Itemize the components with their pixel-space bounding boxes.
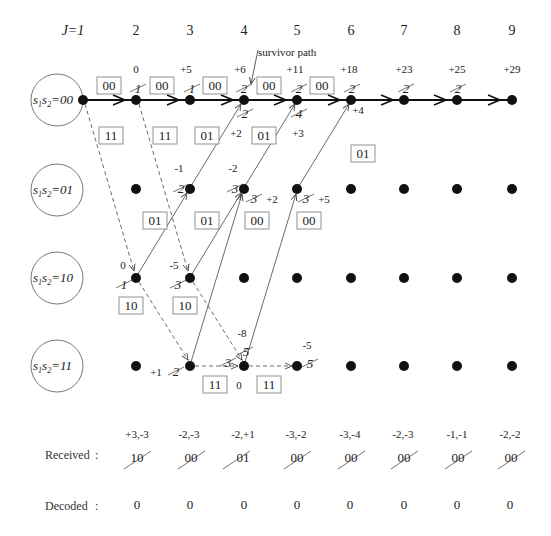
row-00-struck-metrics: 1 1 2 2 2 2 2: [130, 81, 466, 96]
svg-text:00: 00: [156, 78, 169, 93]
row-11-branch-boxes: 11 11: [203, 376, 281, 393]
column-label-5: 5: [294, 23, 301, 38]
node: [346, 184, 356, 194]
svg-text:10: 10: [179, 298, 192, 313]
svg-text:2: 2: [173, 364, 180, 379]
svg-text:+25: +25: [448, 63, 466, 75]
received-row: Received : +3,-3 -2,-3 -2,+1 -3,-2 -3,-4…: [45, 428, 525, 469]
svg-text:-5: -5: [302, 339, 312, 351]
node: [399, 273, 409, 283]
row-00-lower-metrics: 2 +2 4 +3 +4: [230, 104, 364, 139]
node: [452, 184, 462, 194]
node: [185, 273, 195, 283]
trellis-diagram: J=1 2 3 4 5 6 7 8 9 survivor path s1s2=0…: [0, 0, 551, 536]
node: [452, 361, 462, 371]
svg-text:11: 11: [263, 377, 276, 392]
svg-text:2: 2: [455, 81, 462, 96]
node: [399, 95, 409, 105]
svg-text:01: 01: [149, 213, 162, 228]
node: [292, 184, 302, 194]
svg-text:+18: +18: [340, 63, 358, 75]
column-label-8: 8: [454, 23, 461, 38]
svg-text:+5: +5: [318, 193, 330, 205]
svg-text:+23: +23: [395, 63, 413, 75]
svg-text:-5: -5: [169, 259, 179, 271]
svg-text:+29: +29: [503, 63, 521, 75]
node: [507, 273, 517, 283]
svg-text:2: 2: [349, 81, 356, 96]
row-00-metrics: 0 +5 +6 +11 +18 +23 +25 +29: [133, 63, 521, 75]
svg-text:+2: +2: [230, 127, 242, 139]
svg-text:+3,-3: +3,-3: [125, 428, 149, 440]
column-label-6: 6: [348, 23, 355, 38]
svg-text:2: 2: [403, 81, 410, 96]
svg-text:11: 11: [105, 128, 118, 143]
svg-text:+6: +6: [234, 63, 246, 75]
column-label-4: 4: [241, 23, 248, 38]
node: [239, 361, 249, 371]
svg-text:+3: +3: [292, 127, 304, 139]
svg-text:+1: +1: [150, 366, 162, 378]
node: [131, 95, 141, 105]
node: [131, 273, 141, 283]
node: [346, 273, 356, 283]
svg-text:00: 00: [209, 78, 222, 93]
state-01: s1s2=01: [31, 164, 83, 216]
svg-text:01: 01: [258, 128, 271, 143]
svg-text:-1: -1: [174, 162, 183, 174]
svg-text:s1s2=01: s1s2=01: [33, 182, 73, 199]
node: [185, 95, 195, 105]
state-circles: s1s2=00 s1s2=01 s1s2=10 s1s2=11: [31, 74, 83, 392]
node: [131, 184, 141, 194]
state-00: s1s2=00: [31, 74, 83, 126]
node: [507, 361, 517, 371]
node: [399, 184, 409, 194]
svg-text:0: 0: [120, 259, 126, 271]
svg-text:11: 11: [159, 128, 172, 143]
node: [292, 361, 302, 371]
node: [292, 273, 302, 283]
svg-text:-3,-4: -3,-4: [339, 428, 361, 440]
node: [185, 361, 195, 371]
svg-text:+4: +4: [352, 104, 364, 116]
svg-text:-8: -8: [237, 327, 247, 339]
survivor-path-label: survivor path: [258, 46, 317, 58]
column-label-7: 7: [401, 23, 408, 38]
node: [292, 95, 302, 105]
node: [239, 273, 249, 283]
decoded-label: Decoded: [45, 499, 88, 513]
column-label-1: J=1: [62, 23, 85, 38]
node: [239, 95, 249, 105]
svg-text:2: 2: [178, 181, 185, 196]
state-10: s1s2=10: [31, 252, 83, 304]
svg-text:0: 0: [133, 63, 139, 75]
column-label-2: 2: [133, 23, 140, 38]
svg-text:0: 0: [507, 497, 514, 512]
svg-text:1: 1: [135, 81, 142, 96]
svg-text:4: 4: [296, 106, 303, 121]
svg-text::: :: [95, 499, 98, 513]
svg-text:0: 0: [187, 497, 194, 512]
received-soft-values: +3,-3 -2,-3 -2,+1 -3,-2 -3,-4 -2,-3 -1,-…: [125, 428, 520, 440]
received-hard-values: 10 00 01 00 00 00 00 00: [124, 450, 525, 469]
svg-text:-2,-3: -2,-3: [392, 428, 414, 440]
svg-text:2: 2: [242, 106, 249, 121]
svg-text:00: 00: [251, 213, 264, 228]
column-labels: J=1 2 3 4 5 6 7 8 9: [62, 23, 516, 38]
svg-text:-2,-3: -2,-3: [178, 428, 200, 440]
svg-text:s1s2=11: s1s2=11: [33, 358, 72, 375]
row-10-branch-boxes: 10 10: [119, 297, 197, 314]
svg-text:01: 01: [357, 146, 370, 161]
svg-text:+11: +11: [287, 63, 304, 75]
svg-text:0: 0: [347, 497, 354, 512]
svg-text:0: 0: [294, 497, 301, 512]
svg-text:1: 1: [121, 277, 128, 292]
svg-text:s1s2=10: s1s2=10: [33, 270, 73, 287]
svg-text:10: 10: [125, 298, 138, 313]
svg-text:0: 0: [236, 379, 242, 391]
svg-text:0: 0: [454, 497, 461, 512]
svg-text:s1s2=00: s1s2=00: [33, 92, 73, 109]
svg-text:-2: -2: [228, 162, 237, 174]
state-11: s1s2=11: [31, 340, 83, 392]
svg-text:+2: +2: [266, 193, 278, 205]
